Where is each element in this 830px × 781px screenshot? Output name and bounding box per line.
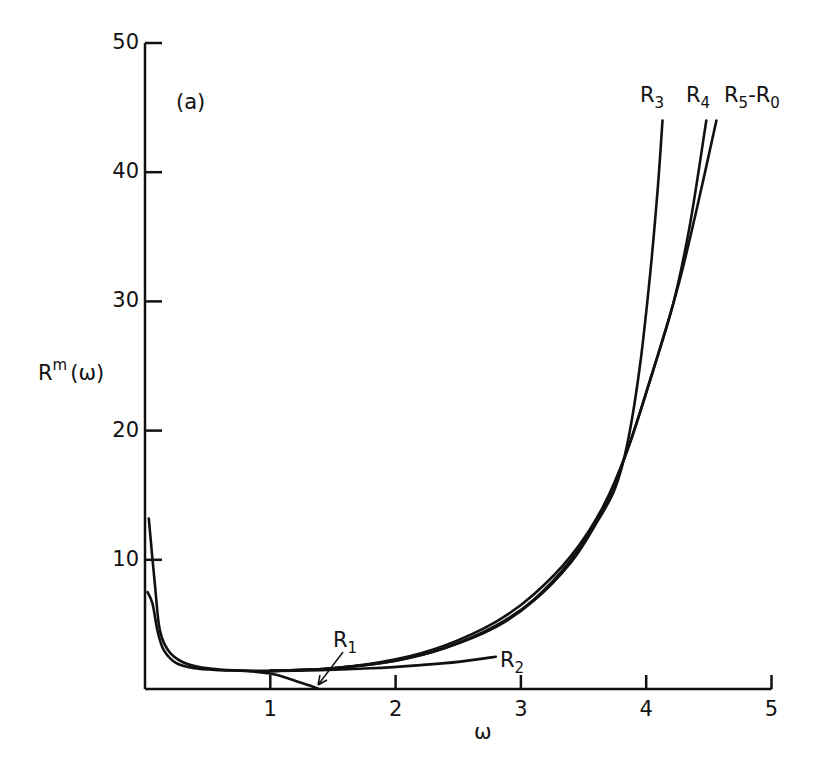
- axes: [145, 43, 772, 689]
- y-tick-label: 20: [79, 420, 139, 441]
- curve-r1: [148, 592, 318, 688]
- x-tick-label: 2: [381, 699, 411, 720]
- series-label-r4: R4: [686, 85, 710, 111]
- data-curves: [148, 121, 717, 689]
- series-label-r1: R1: [333, 630, 357, 656]
- curve-r5-r0: [270, 121, 716, 671]
- y-tick-label: 40: [79, 161, 139, 182]
- curve-r4: [270, 121, 706, 671]
- y-tick-label: 30: [79, 290, 139, 311]
- series-label-r3: R3: [640, 85, 664, 111]
- x-tick-label: 3: [506, 699, 536, 720]
- x-axis-label: ω: [474, 722, 492, 743]
- x-tick-label: 5: [757, 699, 787, 720]
- y-tick-label: 10: [79, 549, 139, 570]
- series-label-r2: R2: [500, 650, 524, 676]
- series-label-r5-r0: R5-R0: [724, 85, 780, 111]
- curve-r3: [270, 121, 662, 671]
- y-axis-label: Rm(ω): [38, 358, 104, 384]
- panel-label: (a): [176, 92, 205, 113]
- y-tick-label: 50: [79, 32, 139, 53]
- chart-plot-area: [0, 0, 830, 781]
- x-tick-label: 4: [631, 699, 661, 720]
- x-tick-label: 1: [255, 699, 285, 720]
